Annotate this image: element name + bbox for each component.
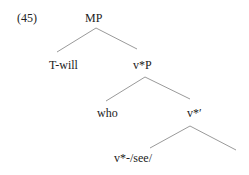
branch-vstarp-who <box>106 77 145 101</box>
tree-branches <box>0 0 249 175</box>
branch-mp-vstarp <box>96 28 137 49</box>
branch-vstarp-vstarbar <box>145 77 190 99</box>
branch-mp-twill <box>57 28 96 52</box>
branch-vstarbar-right <box>190 126 236 150</box>
branch-vstarbar-vstarsee <box>150 126 190 148</box>
